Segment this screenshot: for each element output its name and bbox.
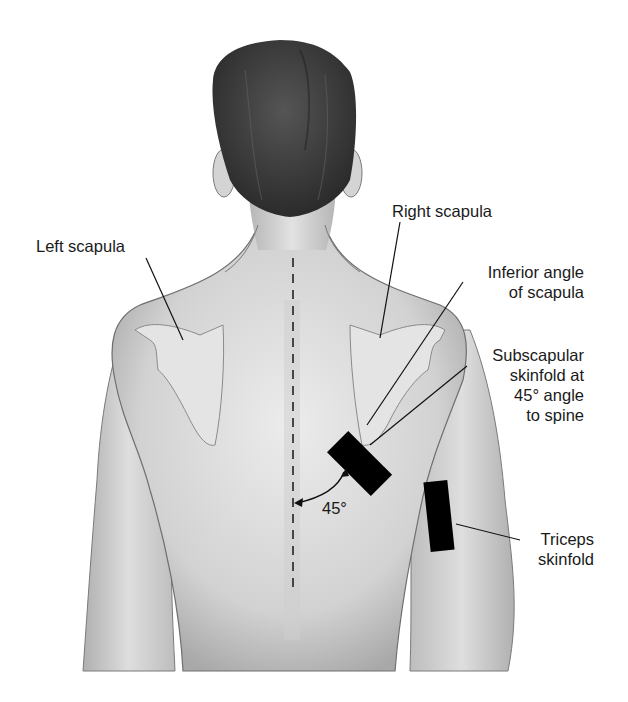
label-line: 45° angle [492, 385, 584, 405]
label-subscapular-skinfold: Subscapular skinfold at 45° angle to spi… [492, 345, 584, 425]
label-line: Triceps [538, 529, 594, 549]
label-triceps-skinfold: Triceps skinfold [538, 529, 594, 569]
head-hair [212, 40, 356, 217]
label-inferior-angle: Inferior angle of scapula [488, 262, 584, 302]
label-line: skinfold at [492, 365, 584, 385]
label-line: Inferior angle [488, 262, 584, 282]
label-right-scapula: Right scapula [392, 201, 492, 221]
label-left-scapula: Left scapula [36, 236, 125, 256]
label-line: of scapula [488, 282, 584, 302]
label-angle: 45° [322, 498, 347, 518]
label-line: Subscapular [492, 345, 584, 365]
label-line: to spine [492, 405, 584, 425]
label-line: skinfold [538, 549, 594, 569]
